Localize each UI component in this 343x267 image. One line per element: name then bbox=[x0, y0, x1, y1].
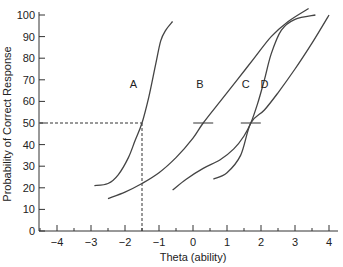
y-tick-label: 90 bbox=[23, 31, 35, 43]
curve-a bbox=[94, 22, 172, 186]
curve-c bbox=[173, 15, 316, 190]
x-tick-label: −1 bbox=[153, 236, 166, 248]
curve-b bbox=[108, 9, 309, 199]
y-axis-title: Probability of Correct Response bbox=[1, 46, 13, 201]
y-tick-label: 80 bbox=[23, 52, 35, 64]
axes: 0102030405060708090100 −4−3−2−101234 The… bbox=[1, 9, 338, 263]
y-tick-label: 0 bbox=[29, 225, 35, 237]
x-tick-label: 1 bbox=[224, 236, 230, 248]
y-ticks: 0102030405060708090100 bbox=[17, 9, 45, 237]
curve-label-a: A bbox=[130, 78, 138, 90]
x-ticks: −4−3−2−101234 bbox=[40, 225, 332, 248]
y-tick-label: 60 bbox=[23, 95, 35, 107]
curve-d bbox=[213, 15, 329, 179]
curve-label-d: D bbox=[260, 78, 268, 90]
y-tick-label: 40 bbox=[23, 139, 35, 151]
y-tick-label: 30 bbox=[23, 160, 35, 172]
x-tick-label: 3 bbox=[292, 236, 298, 248]
curve-label-b: B bbox=[196, 78, 203, 90]
x-tick-label: −4 bbox=[51, 236, 64, 248]
x-tick-label: 2 bbox=[258, 236, 264, 248]
curve-label-c: C bbox=[242, 78, 250, 90]
y-tick-label: 10 bbox=[23, 203, 35, 215]
x-axis-title: Theta (ability) bbox=[160, 251, 227, 263]
y-tick-label: 70 bbox=[23, 74, 35, 86]
x-tick-label: −3 bbox=[85, 236, 98, 248]
y-tick-label: 100 bbox=[17, 9, 35, 21]
x-tick-label: 4 bbox=[326, 236, 332, 248]
y-tick-label: 20 bbox=[23, 182, 35, 194]
plot-area: ABCD bbox=[40, 9, 329, 232]
x-tick-label: 0 bbox=[190, 236, 196, 248]
y-tick-label: 50 bbox=[23, 117, 35, 129]
x-tick-label: −2 bbox=[119, 236, 132, 248]
irt-chart: ABCD 0102030405060708090100 −4−3−2−10123… bbox=[0, 0, 343, 267]
